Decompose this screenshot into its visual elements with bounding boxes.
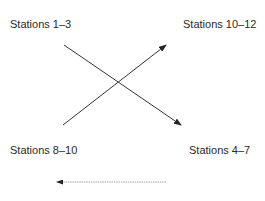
flow-arrows — [0, 0, 265, 201]
arrow-stations-1-3-to-4-7 — [64, 45, 181, 125]
arrow-stations-8-10-to-10-12 — [63, 45, 166, 125]
